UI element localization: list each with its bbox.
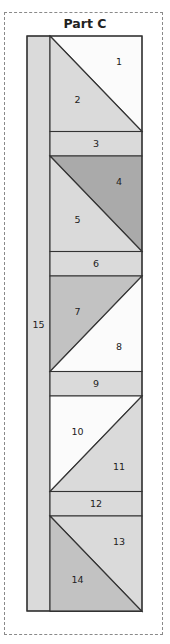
piece-label-11: 11	[113, 461, 125, 472]
piece-label-7: 7	[75, 306, 81, 317]
piece-label-12: 12	[90, 498, 102, 509]
piece-label-14: 14	[72, 574, 84, 585]
quilt-block-diagram: 151234567891011121314	[0, 0, 170, 644]
piece-label-13: 13	[113, 536, 125, 547]
piece-label-3: 3	[93, 138, 99, 149]
piece-label-4: 4	[116, 176, 122, 187]
piece-label-8: 8	[116, 341, 122, 352]
piece-label-2: 2	[75, 94, 81, 105]
piece-label-5: 5	[75, 214, 81, 225]
piece-label-9: 9	[93, 378, 99, 389]
piece-label-6: 6	[93, 258, 99, 269]
piece-label-15: 15	[32, 319, 44, 330]
piece-label-10: 10	[72, 426, 84, 437]
piece-label-1: 1	[116, 56, 122, 67]
